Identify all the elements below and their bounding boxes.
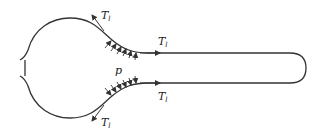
label-tension-top-tube: Tl bbox=[158, 35, 168, 49]
label-tension-bottom-bulb: Tl bbox=[101, 116, 111, 130]
diagram: Tl Tl Tl Tl p bbox=[0, 0, 319, 138]
label-tension-top-bulb: Tl bbox=[101, 9, 111, 23]
membrane-outline bbox=[20, 18, 306, 118]
label-tension-bottom-tube: Tl bbox=[158, 90, 168, 104]
label-pressure: p bbox=[115, 64, 122, 77]
